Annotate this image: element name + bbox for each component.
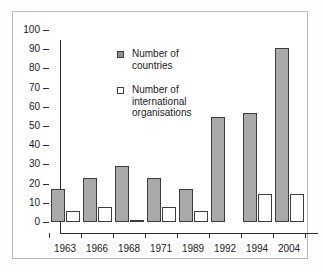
y-axis-label: 70 [0,83,40,93]
chart-frame: 0102030405060708090100196319661968197119… [12,11,308,259]
y-axis-tick [43,126,49,127]
bar-orgs-1994 [258,194,272,222]
bar-countries-1994 [243,113,257,222]
chart-legend: Number ofcountries Number ofinternationa… [117,48,227,132]
bar-countries-1971 [147,178,161,222]
bar-countries-1966 [83,178,97,222]
bar-orgs-1971 [162,207,176,222]
y-axis-label: 60 [0,102,40,112]
bar-countries-1968 [115,166,129,222]
legend-item-countries: Number ofcountries [117,48,227,71]
bar-countries-2004 [275,48,289,222]
y-axis-label: 20 [0,179,40,189]
bar-orgs-1963 [66,211,80,222]
x-axis-line [60,233,318,234]
y-axis-tick [43,88,49,89]
y-axis-tick [43,49,49,50]
x-axis-tick [273,233,274,238]
x-axis-tick [305,233,306,238]
bar-orgs-1989 [194,211,208,222]
legend-item-organisations: Number ofinternationalorganisations [117,84,227,119]
x-axis-label: 2004 [269,243,309,254]
bar-countries-1992 [211,117,225,222]
y-axis-label: 50 [0,121,40,131]
y-axis-tick [43,30,49,31]
bar-orgs-1966 [98,207,112,222]
legend-swatch-organisations-icon [117,87,124,94]
bar-countries-1989 [179,189,193,222]
bar-orgs-2004 [290,194,304,222]
x-axis-tick [209,233,210,238]
y-axis-tick [43,222,49,223]
y-axis-tick [43,145,49,146]
y-axis-tick [43,68,49,69]
bar-countries-1963 [51,189,65,222]
y-axis-label: 90 [0,44,40,54]
y-axis-label: 80 [0,63,40,73]
chart-figure: 0102030405060708090100196319661968197119… [0,0,323,272]
y-axis-tick [43,107,49,108]
y-axis-label: 30 [0,159,40,169]
y-axis-tick [43,184,49,185]
legend-label-countries: Number ofcountries [132,48,179,71]
x-axis-tick [49,233,50,238]
x-axis-tick [145,233,146,238]
legend-label-organisations: Number ofinternationalorganisations [132,84,191,119]
x-axis-tick [113,233,114,238]
y-axis-tick [43,164,49,165]
y-axis-label: 10 [0,198,40,208]
y-axis-label: 40 [0,140,40,150]
legend-swatch-countries-icon [117,51,124,58]
x-axis-tick [81,233,82,238]
y-axis-label: 0 [0,217,40,227]
y-axis-tick [43,203,49,204]
y-axis-label: 100 [0,25,40,35]
x-axis-tick [241,233,242,238]
x-axis-tick [177,233,178,238]
bar-orgs-1968 [130,220,144,222]
